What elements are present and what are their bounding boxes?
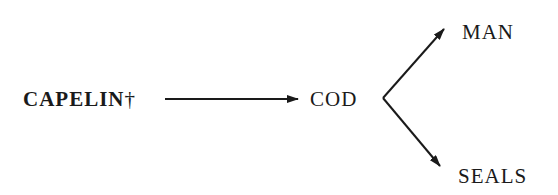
node-man: MAN (462, 22, 514, 43)
node-cod: COD (310, 89, 357, 110)
node-capelin: CAPELIN† (23, 89, 136, 110)
food-chain-diagram: CAPELIN† COD MAN SEALS (0, 0, 558, 195)
dagger-mark: † (125, 87, 137, 111)
capelin-label: CAPELIN (23, 87, 125, 111)
arrow-cod-to-man (383, 29, 444, 98)
arrow-cod-to-seals (383, 98, 440, 166)
node-seals: SEALS (458, 166, 527, 187)
